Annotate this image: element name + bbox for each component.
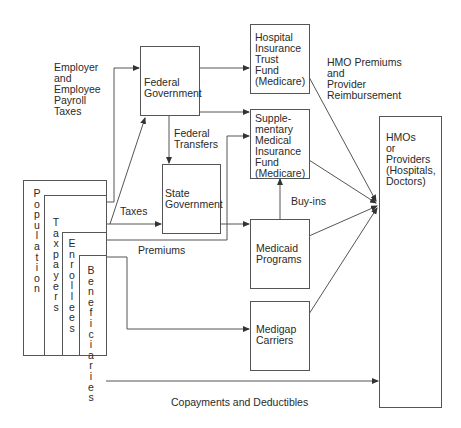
hmo-premiums-label: HMO Premiums and Provider Reimbursement xyxy=(327,57,402,101)
federal-government-label: Federal Government xyxy=(144,77,202,99)
payroll-taxes-label: Employer and Employee Payroll Taxes xyxy=(54,62,101,117)
hmos-providers-label: HMOs or Providers (Hospitals, Doctors) xyxy=(386,132,436,187)
enrollees-label: E n r o l l e e s xyxy=(66,238,78,333)
hospital-insurance-label: Hospital Insurance Trust Fund (Medicare) xyxy=(255,32,305,87)
beneficiaries-label: B e n e f i c i a r i e s xyxy=(85,265,97,403)
smi-fund-label: Supple- mentary Medical Insurance Fund (… xyxy=(255,113,305,179)
state-government-label: State Government xyxy=(165,188,223,210)
taxpayers-label: T a x p a y e r s xyxy=(50,217,62,312)
population-label: P o p u l a t i o n xyxy=(31,188,43,294)
federal-transfers-label: Federal Transfers xyxy=(174,128,218,150)
buy-ins-label: Buy-ins xyxy=(291,196,326,207)
premiums-label: Premiums xyxy=(138,245,185,256)
medicaid-label: Medicaid Programs xyxy=(256,243,302,265)
taxes-label: Taxes xyxy=(120,206,147,217)
medigap-label: Medigap Carriers xyxy=(256,324,296,346)
copayments-label: Copayments and Deductibles xyxy=(171,397,308,408)
